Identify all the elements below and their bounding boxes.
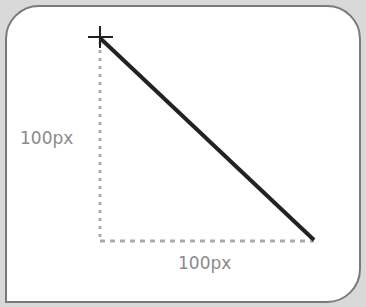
horizontal-label: 100px [178, 253, 231, 273]
diagonal-line [100, 38, 314, 240]
vertical-label: 100px [20, 128, 73, 148]
